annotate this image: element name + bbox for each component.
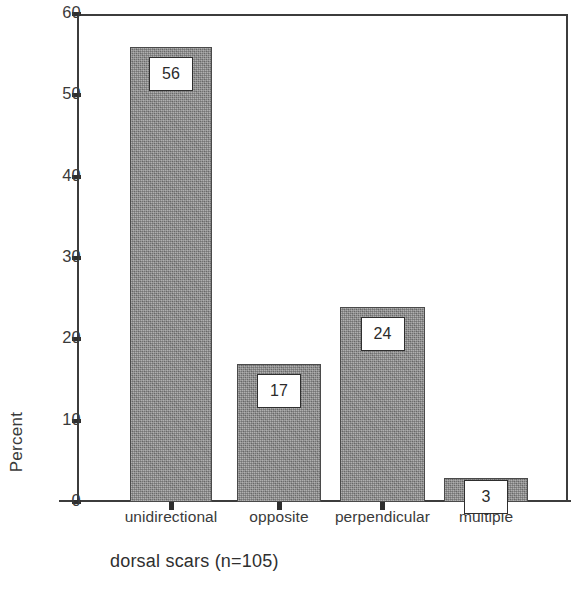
chart-caption: dorsal scars (n=105) <box>110 551 279 572</box>
y-axis-tick-label: 20 <box>15 328 81 347</box>
bar-value-label: 24 <box>361 317 405 351</box>
y-axis-tick-label: 40 <box>15 166 81 185</box>
y-axis-title: Percent <box>7 392 27 492</box>
bar-value-label: 56 <box>149 57 193 91</box>
bar <box>130 47 212 502</box>
x-axis-category-label: perpendicular <box>335 508 430 526</box>
y-axis-tick-label: 60 <box>15 3 81 22</box>
bar-value-label: 17 <box>257 374 301 408</box>
y-axis-tick-label: 0 <box>15 491 81 510</box>
x-axis-category-label: unidirectional <box>125 508 218 526</box>
x-axis-category-label: opposite <box>249 508 308 526</box>
y-axis-tick-label: 50 <box>15 84 81 103</box>
bar-chart: Percent 0102030405060 5617243 unidirecti… <box>0 0 576 591</box>
y-axis-tick-label: 30 <box>15 247 81 266</box>
bar-value-label: 3 <box>464 480 508 514</box>
y-axis-tick-label: 10 <box>15 410 81 429</box>
